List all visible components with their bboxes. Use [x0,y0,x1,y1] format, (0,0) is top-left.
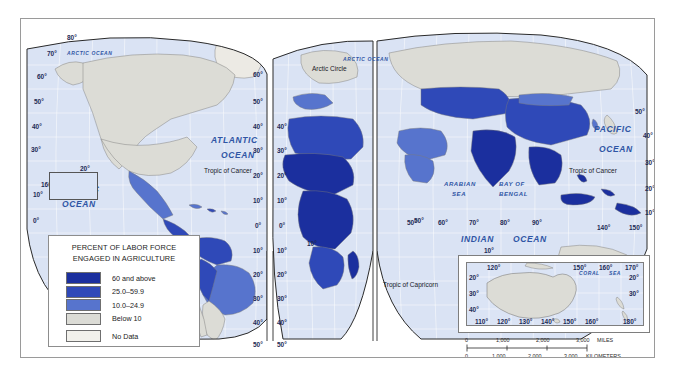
legend-title-line2: ENGAGED IN AGRICULTURE [57,254,191,265]
map-legend: PERCENT OF LABOR FORCE ENGAGED IN AGRICU… [48,235,200,347]
scale-miles-unit: MILES [597,337,613,343]
legend-item-60-and-above: 60 and above [66,271,191,285]
scale-km-tick-2000: 2,000 [528,353,542,357]
legend-swatch-no-data [66,330,101,342]
scale-km-tick-1000: 1,000 [492,353,506,357]
world-map-canvas: 80° 70° 60° 50° 40° 30° 20° 10° 0° 160° … [21,19,654,357]
scale-bars: 0 1,000 2,000 3,000 MILES 0 1,000 2,000 … [463,337,653,357]
scale-km-tick-3000: 3,000 [564,353,578,357]
legend-label-10-to-24: 10.0–24.9 [112,301,144,310]
australia-inset-map: CORAL SEA 120° 150° 160° 170° 20° 30° 40… [466,262,644,326]
scale-miles-tick-0: 0 [465,337,468,343]
legend-swatch-25-to-59 [66,286,101,298]
legend-item-no-data: No Data [66,329,191,343]
legend-swatch-below-10 [66,313,101,325]
legend-item-below-10: Below 10 [66,312,191,326]
legend-label-no-data: No Data [112,332,138,341]
legend-swatch-10-to-24 [66,299,101,311]
map-frame: 80° 70° 60° 50° 40° 30° 20° 10° 0° 160° … [20,18,655,358]
legend-items: 60 and above 25.0–59.9 10.0–24.9 Below 1… [57,271,191,343]
legend-label-below-10: Below 10 [112,314,142,323]
legend-item-25-to-59: 25.0–59.9 [66,285,191,299]
scale-km-tick-0: 0 [465,353,468,357]
australia-inset-graphic [467,263,644,326]
legend-item-10-to-24: 10.0–24.9 [66,298,191,312]
legend-swatch-60-and-above [66,272,101,284]
legend-label-60-and-above: 60 and above [112,274,156,283]
map-figure: 80° 70° 60° 50° 40° 30° 20° 10° 0° 160° … [0,0,676,374]
scale-km-unit: KILOMETERS [586,353,621,357]
hawaii-inset-box [49,172,98,200]
scale-miles-tick-1000: 1,000 [496,337,510,343]
australia-inset-panel: CORAL SEA 120° 150° 160° 170° 20° 30° 40… [458,255,650,333]
legend-title-line1: PERCENT OF LABOR FORCE [57,243,191,254]
scale-miles-tick-2000: 2,000 [536,337,550,343]
scale-miles-tick-3000: 3,000 [576,337,590,343]
legend-label-25-to-59: 25.0–59.9 [112,287,144,296]
